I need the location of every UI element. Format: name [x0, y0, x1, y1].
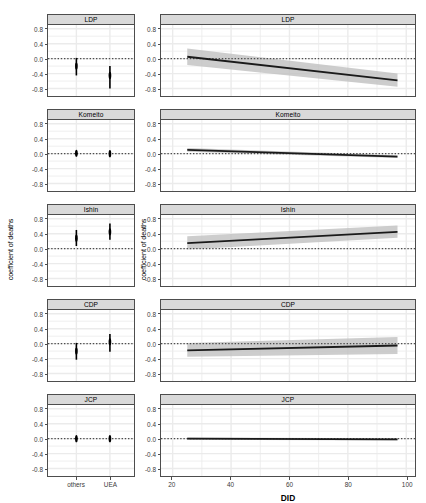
y-axis-tick-mark: [158, 169, 161, 170]
left-column-y-axis-title: coefficient of deaths: [6, 200, 15, 300]
y-axis-tick-label: 0.8: [22, 310, 43, 317]
point-estimate: [75, 150, 78, 157]
y-axis-tick-label: 0.8: [22, 120, 43, 127]
panel-strip-label-komeito: Komeito: [160, 109, 416, 120]
point-estimate: [109, 72, 112, 79]
panel-right-jcp: JCP: [160, 394, 416, 477]
plot-area-left-jcp: [47, 405, 135, 477]
y-axis-tick-label: 0.8: [135, 215, 156, 222]
x-axis-tick-mark: [76, 477, 77, 480]
plot-area-right-ishin: [160, 215, 416, 287]
y-axis-tick-label: 0.0: [135, 151, 156, 158]
y-axis-tick-mark: [45, 439, 48, 440]
y-axis-tick-mark: [45, 374, 48, 375]
y-axis-tick-mark: [45, 313, 48, 314]
y-axis-tick-label: 0.4: [135, 230, 156, 237]
x-axis-tick-label: 60: [286, 481, 293, 488]
y-axis-tick-mark: [158, 264, 161, 265]
y-axis-tick-label: -0.4: [135, 261, 156, 268]
panel-strip-label-jcp: JCP: [47, 394, 135, 405]
y-axis-tick-mark: [158, 374, 161, 375]
y-axis-tick-mark: [45, 249, 48, 250]
y-axis-tick-label: -0.8: [22, 371, 43, 378]
y-axis-tick-mark: [45, 454, 48, 455]
y-axis-tick-label: -0.4: [22, 71, 43, 78]
y-axis-tick-mark: [45, 59, 48, 60]
regression-line: [187, 57, 397, 81]
y-axis-tick-label: -0.8: [22, 466, 43, 473]
right-column-x-axis-title: DID: [160, 493, 416, 503]
y-axis-tick-label: -0.4: [135, 451, 156, 458]
y-axis-tick-mark: [45, 123, 48, 124]
panel-right-ldp: LDP: [160, 14, 416, 97]
y-axis-tick-mark: [158, 44, 161, 45]
y-axis-tick-label: -0.8: [22, 276, 43, 283]
y-axis-tick-label: 0.4: [22, 40, 43, 47]
y-axis-tick-label: -0.4: [135, 356, 156, 363]
y-axis-tick-mark: [158, 439, 161, 440]
y-axis-tick-label: 0.8: [22, 405, 43, 412]
y-axis-tick-mark: [45, 234, 48, 235]
panel-left-komeito: Komeito: [47, 109, 135, 192]
y-axis-tick-label: 0.0: [22, 151, 43, 158]
y-axis-tick-mark: [158, 59, 161, 60]
point-estimate: [75, 348, 78, 355]
y-axis-tick-label: 0.0: [135, 246, 156, 253]
y-axis-tick-mark: [158, 408, 161, 409]
y-axis-tick-label: -0.4: [22, 356, 43, 363]
y-axis-tick-label: 0.0: [22, 56, 43, 63]
y-axis-tick-mark: [158, 218, 161, 219]
y-axis-tick-mark: [158, 154, 161, 155]
y-axis-tick-label: 0.4: [22, 420, 43, 427]
y-axis-tick-mark: [158, 454, 161, 455]
plot-area-left-ishin: [47, 215, 135, 287]
y-axis-tick-mark: [45, 329, 48, 330]
y-axis-tick-label: 0.4: [135, 40, 156, 47]
y-axis-tick-mark: [158, 313, 161, 314]
x-axis-tick-label: 40: [227, 481, 234, 488]
y-axis-tick-label: -0.8: [22, 86, 43, 93]
panel-left-jcp: JCP: [47, 394, 135, 477]
panel-strip-label-cdp: CDP: [160, 299, 416, 310]
y-axis-tick-label: 0.0: [22, 341, 43, 348]
y-axis-tick-label: -0.8: [135, 466, 156, 473]
y-axis-tick-mark: [158, 89, 161, 90]
panel-strip-label-ldp: LDP: [47, 14, 135, 25]
plot-area-right-jcp: [160, 405, 416, 477]
panel-right-cdp: CDP: [160, 299, 416, 382]
point-estimate: [109, 150, 112, 157]
y-axis-tick-label: 0.8: [135, 120, 156, 127]
y-axis-tick-label: 0.0: [135, 56, 156, 63]
x-axis-tick-mark: [407, 477, 408, 480]
y-axis-tick-label: 0.8: [135, 25, 156, 32]
panel-left-ldp: LDP: [47, 14, 135, 97]
y-axis-tick-mark: [158, 424, 161, 425]
plot-area-left-ldp: [47, 25, 135, 97]
y-axis-tick-mark: [45, 408, 48, 409]
y-axis-tick-label: -0.4: [135, 166, 156, 173]
y-axis-tick-label: 0.8: [22, 215, 43, 222]
x-axis-tick-label-uea: UEA: [104, 481, 117, 488]
y-axis-tick-label: 0.0: [22, 436, 43, 443]
panel-strip-label-cdp: CDP: [47, 299, 135, 310]
x-axis-tick-label: 20: [168, 481, 175, 488]
y-axis-tick-label: 0.4: [135, 135, 156, 142]
point-estimate: [75, 63, 78, 70]
y-axis-tick-label: 0.0: [135, 436, 156, 443]
y-axis-tick-label: 0.0: [22, 246, 43, 253]
point-estimate: [109, 338, 112, 345]
y-axis-tick-mark: [158, 279, 161, 280]
x-axis-tick-mark: [171, 477, 172, 480]
y-axis-tick-label: 0.8: [22, 25, 43, 32]
panel-strip-label-jcp: JCP: [160, 394, 416, 405]
y-axis-tick-label: -0.4: [22, 261, 43, 268]
x-axis-tick-label: 100: [402, 481, 413, 488]
x-axis-tick-label-others: others: [67, 481, 85, 488]
panel-strip-label-ishin: Ishin: [47, 204, 135, 215]
y-axis-tick-mark: [45, 469, 48, 470]
y-axis-tick-mark: [45, 359, 48, 360]
plot-area-right-ldp: [160, 25, 416, 97]
y-axis-tick-mark: [158, 359, 161, 360]
x-axis-tick-mark: [110, 477, 111, 480]
y-axis-tick-mark: [45, 89, 48, 90]
